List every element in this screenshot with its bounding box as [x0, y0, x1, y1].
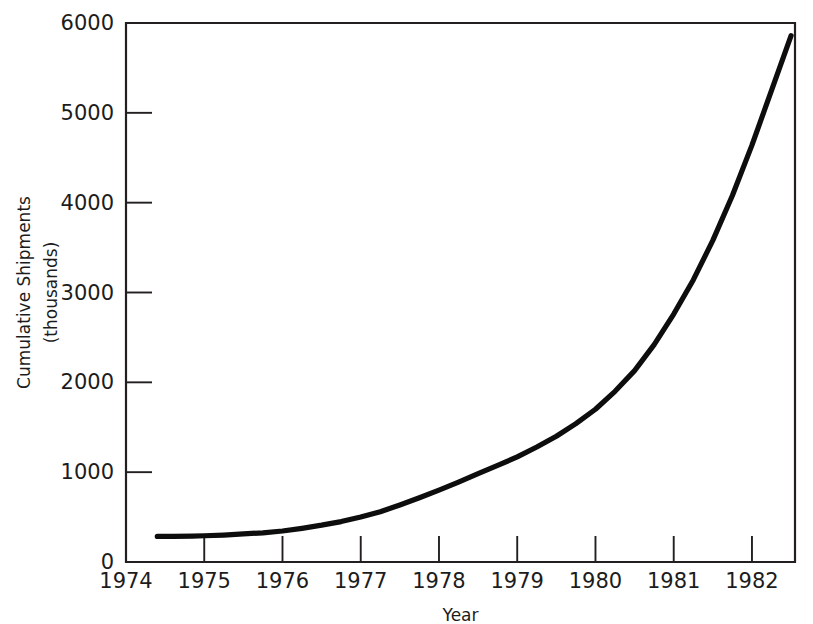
x-axis-tick-label: 1978 — [412, 569, 465, 593]
chart-container: 0100020003000400050006000197419751976197… — [0, 0, 813, 624]
x-axis-tick-label: 1974 — [99, 569, 152, 593]
x-axis-title: Year — [442, 605, 479, 624]
line-chart: 0100020003000400050006000197419751976197… — [0, 0, 813, 624]
x-axis-tick-label: 1982 — [725, 569, 778, 593]
y-axis-tick-label: 2000 — [61, 370, 114, 394]
x-axis-tick-label: 1981 — [647, 569, 700, 593]
y-axis-tick-label: 4000 — [61, 191, 114, 215]
y-axis-title: Cumulative Shipments — [14, 196, 34, 389]
y-axis-tick-label: 5000 — [61, 101, 114, 125]
y-axis-tick-label: 3000 — [61, 281, 114, 305]
x-axis-tick-label: 1980 — [569, 569, 622, 593]
y-axis-tick-label: 6000 — [61, 11, 114, 35]
y-axis-subtitle: (thousands) — [41, 242, 61, 344]
y-axis-tick-label: 1000 — [61, 460, 114, 484]
x-axis-tick-label: 1979 — [491, 569, 544, 593]
x-axis-tick-label: 1975 — [178, 569, 231, 593]
x-axis-tick-label: 1977 — [334, 569, 387, 593]
data-series-line — [157, 36, 791, 537]
x-axis-tick-label: 1976 — [256, 569, 309, 593]
